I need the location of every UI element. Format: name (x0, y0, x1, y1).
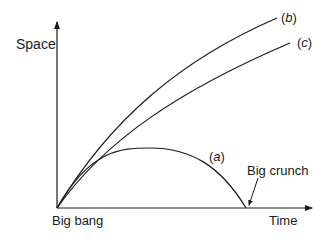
curve-b-label: (b) (281, 11, 297, 24)
big-crunch-pointer (249, 178, 258, 205)
curve-b (57, 18, 277, 208)
curve-c-label: (c) (297, 36, 312, 49)
x-axis-label: Time (269, 214, 297, 227)
big-crunch-label: Big crunch (247, 164, 308, 177)
curve-c (57, 43, 290, 208)
origin-label: Big bang (52, 214, 103, 227)
y-axis-label: Space (16, 37, 56, 51)
curve-a-label: (a) (209, 150, 225, 163)
